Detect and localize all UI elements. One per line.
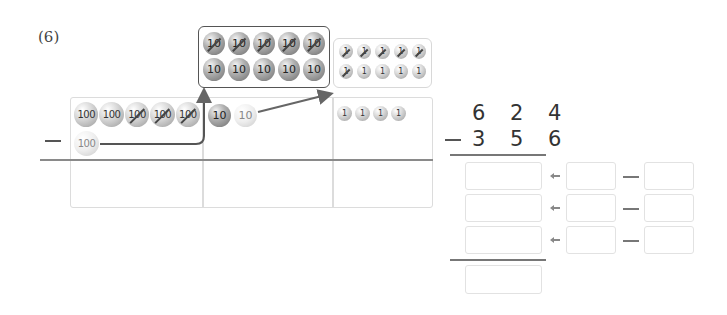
row-left-operand-box[interactable] [566,226,616,254]
row-left-operand-box[interactable] [566,162,616,190]
vertical-minus-sign [445,139,461,141]
row-left-operand-box[interactable] [566,194,616,222]
row-right-operand-box[interactable] [644,194,694,222]
left-arrow-icon [550,237,560,243]
final-answer-box[interactable] [465,265,542,294]
minus-dash-icon [623,176,639,178]
minus-dash-icon [623,240,639,242]
row-result-box[interactable] [465,194,542,222]
sum-rule [450,259,546,261]
subtraction-rule [450,154,546,156]
regroup-arrows [0,0,727,315]
subtrahend: 3 5 6 [472,127,570,151]
row-right-operand-box[interactable] [644,162,694,190]
hundred-to-tens-arrow [100,91,204,144]
left-arrow-icon [550,205,560,211]
left-arrow-icon [550,173,560,179]
minus-dash-icon [623,208,639,210]
row-right-operand-box[interactable] [644,226,694,254]
ten-to-ones-arrow [258,94,330,112]
row-result-box[interactable] [465,162,542,190]
row-result-box[interactable] [465,226,542,254]
minuend: 6 2 4 [472,101,570,125]
